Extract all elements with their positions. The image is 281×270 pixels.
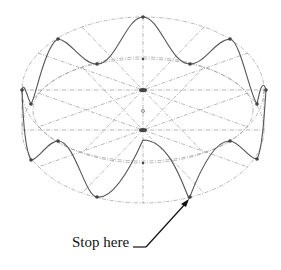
construction-points (20, 15, 268, 199)
arrow-head-icon (181, 199, 189, 207)
wave-curve (22, 17, 266, 199)
cylinder-diagram (0, 0, 281, 270)
construction-lines (22, 17, 264, 203)
stop-here-leader (133, 203, 186, 247)
stop-here-label: Stop here (72, 234, 129, 251)
